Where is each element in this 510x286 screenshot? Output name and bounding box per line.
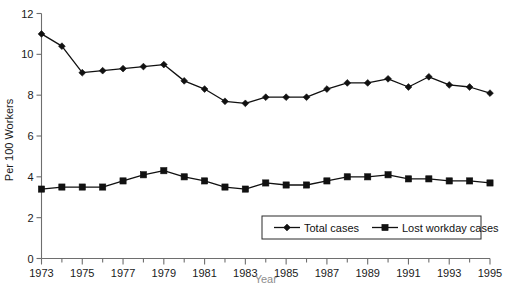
x-axis-tick-label: 1977 [111,267,135,279]
data-point-marker [385,172,391,178]
data-point-marker [161,168,167,174]
data-point-marker [344,80,351,87]
data-point-marker [324,86,331,93]
x-axis-tick-label: 1973 [29,267,53,279]
data-point-marker [38,186,44,192]
x-axis-tick-label: 1989 [355,267,379,279]
data-point-marker [242,186,248,192]
data-point-marker [283,94,290,101]
x-axis-tick-label: 1975 [70,267,94,279]
data-point-marker [99,67,106,74]
x-axis-tick-label: 1991 [396,267,420,279]
series-line [42,34,491,103]
x-axis-title: Year [255,273,278,285]
data-point-marker [140,63,147,70]
data-point-marker [79,184,85,190]
data-point-marker [405,176,411,182]
data-point-marker [324,178,330,184]
legend-label-lost-workday-cases: Lost workday cases [402,222,499,234]
data-point-marker [466,84,473,91]
data-point-marker [201,178,207,184]
x-axis-tick-label: 1987 [315,267,339,279]
series-1 [38,31,493,107]
data-point-marker [242,100,249,107]
y-axis-tick-label: 10 [21,48,33,60]
data-point-marker [201,86,208,93]
legend-square-icon [382,224,388,230]
x-axis-tick-label: 1993 [437,267,461,279]
chart-container: 024681012 197319751977197919811983198519… [0,0,510,286]
x-axis-tick-label: 1995 [478,267,502,279]
y-axis-tick-label: 8 [27,89,33,101]
data-point-marker [38,31,45,38]
data-point-marker [467,178,473,184]
line-chart: 024681012 197319751977197919811983198519… [0,0,510,286]
y-axis-tick-label: 12 [21,8,33,20]
data-point-marker [120,65,127,72]
data-series-group [38,31,493,193]
data-point-marker [100,184,106,190]
data-point-marker [405,84,412,91]
data-point-marker [425,73,432,80]
data-point-marker [140,172,146,178]
data-point-marker [344,174,350,180]
y-axis-tick-label: 0 [27,253,33,265]
y-axis-title: Per 100 Workers [3,98,15,181]
data-point-marker [283,182,289,188]
data-point-marker [120,178,126,184]
data-point-marker [303,94,310,101]
data-point-marker [446,82,453,89]
data-point-marker [181,174,187,180]
y-axis: 024681012 [21,8,41,265]
chart-legend: Total casesLost workday cases [262,216,499,239]
series-2 [38,168,493,193]
y-axis-tick-label: 4 [27,171,33,183]
data-point-marker [59,184,65,190]
x-axis-tick-label: 1985 [274,267,298,279]
data-point-marker [263,180,269,186]
data-point-marker [426,176,432,182]
data-point-marker [262,94,269,101]
data-point-marker [222,184,228,190]
data-point-marker [446,178,452,184]
data-point-marker [303,182,309,188]
data-point-marker [365,174,371,180]
y-axis-tick-label: 6 [27,130,33,142]
data-point-marker [364,80,371,87]
data-point-marker [487,90,494,97]
x-axis-tick-label: 1979 [152,267,176,279]
data-point-marker [222,98,229,105]
data-point-marker [385,75,392,82]
x-axis-tick-label: 1981 [192,267,216,279]
data-point-marker [487,180,493,186]
y-axis-tick-label: 2 [27,212,33,224]
legend-label-total-cases: Total cases [304,222,360,234]
